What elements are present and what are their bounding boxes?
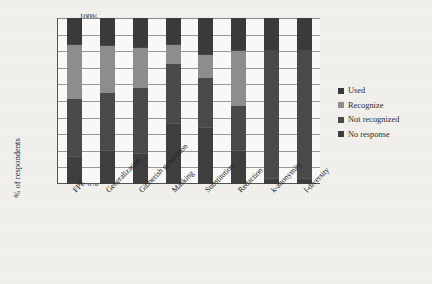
legend-label: Not recognized	[348, 115, 399, 124]
bar-segment	[133, 88, 148, 154]
bar-segment	[166, 64, 181, 124]
bar-segment	[264, 18, 279, 51]
legend-item: Not recognized	[338, 115, 430, 124]
bar-column	[198, 18, 213, 183]
legend-swatch-icon	[338, 131, 344, 137]
bar-column	[264, 18, 279, 183]
bar-segment	[198, 55, 213, 78]
bar-column	[67, 18, 82, 183]
legend-item: No response	[338, 130, 430, 139]
bar-segment	[198, 128, 213, 184]
bar-segment	[198, 78, 213, 128]
legend-swatch-icon	[338, 102, 344, 108]
bar-segment	[198, 18, 213, 55]
bar-segment	[231, 106, 246, 151]
legend-item: Recognize	[338, 101, 430, 110]
plot-area	[57, 18, 320, 184]
bar-segment	[67, 45, 82, 100]
bar-column	[231, 18, 246, 183]
bar-segment	[100, 46, 115, 92]
chart-legend: UsedRecognizeNot recognizedNo response	[338, 86, 430, 144]
bar-segment	[100, 18, 115, 46]
bar-segment	[166, 18, 181, 45]
bar-segment	[297, 51, 312, 179]
legend-label: Recognize	[348, 101, 383, 110]
legend-label: No response	[348, 130, 390, 139]
legend-label: Used	[348, 86, 365, 95]
bar-segment	[67, 99, 82, 157]
bar-segment	[67, 18, 82, 45]
bar-segment	[231, 18, 246, 51]
bar-segment	[231, 51, 246, 106]
bar-segment	[133, 18, 148, 48]
chart-figure: % of respondents 100%90%80%70%60%50%40%3…	[0, 0, 432, 284]
bar-column	[100, 18, 115, 183]
bar-segment	[166, 45, 181, 65]
bar-segment	[297, 18, 312, 51]
legend-item: Used	[338, 86, 430, 95]
bar-segment	[133, 48, 148, 88]
bar-segment	[264, 51, 279, 179]
legend-swatch-icon	[338, 117, 344, 123]
bar-column	[297, 18, 312, 183]
bar-segment	[100, 93, 115, 151]
legend-swatch-icon	[338, 88, 344, 94]
bar-series-group	[58, 18, 320, 183]
